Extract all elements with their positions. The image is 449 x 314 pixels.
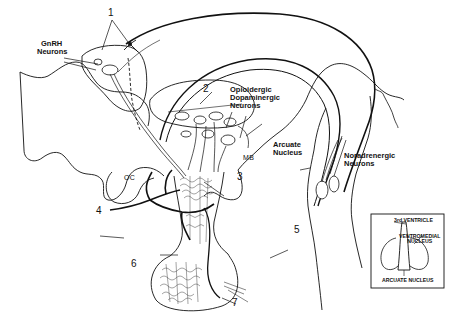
label-number-4: 4: [96, 206, 102, 217]
diagram-canvas: 1 GnRH Neurons 2 Opioidergic Dopaminergi…: [0, 0, 449, 314]
label-arcuate-nucleus: Arcuate Nucleus: [273, 141, 302, 157]
brainstem-left-edge: [307, 108, 326, 310]
brain-lower-contour: [20, 72, 164, 200]
label-gnrh-neurons: GnRH Neurons: [37, 40, 67, 56]
label-number-3: 3: [237, 172, 243, 183]
label-number-2: 2: [203, 84, 209, 95]
inset-label-arcuate-nucleus: ARCUATE NUCLEUS: [382, 278, 434, 283]
pituitary-capillary-network: [160, 262, 202, 304]
label-opioidergic-dopaminergic-neurons: Opioidergic Dopaminergic Neurons: [230, 86, 280, 110]
label-number-5: 5: [294, 225, 300, 236]
label-number-7: 7: [232, 298, 238, 309]
gnrh-line-2: Neurons: [37, 48, 67, 56]
noradrenergic-line-2: Neurons: [344, 160, 395, 168]
label-oc: OC: [124, 174, 135, 181]
label-number-6: 6: [131, 259, 137, 270]
portal-capillary-plexus: [180, 176, 214, 244]
gnrh-region-outline: [82, 45, 147, 111]
portal-vessel-7: [204, 208, 220, 298]
pituitary-stalk-right: [214, 172, 228, 254]
label-noradrenergic-neurons: Noradrenergic Neurons: [344, 152, 395, 168]
pituitary-stalk-left: [170, 176, 182, 256]
inset-label-ventromedial-nucleus: VENTROMEDIAL NUCLEUS: [399, 234, 441, 245]
cerebellar-squiggle: [374, 88, 398, 128]
inset-label-3rd-ventricle: 3rd VENTRICLE: [394, 218, 433, 223]
gnrh-neuron-1: [102, 65, 118, 75]
gnrh-neuron-2: [94, 59, 102, 65]
arcuate-line-2: Nucleus: [273, 149, 302, 157]
label-mb: MB: [243, 154, 254, 161]
label-number-1: 1: [108, 8, 114, 19]
ventromedial-line-2: NUCLEUS: [399, 239, 441, 244]
gnrh-axon-bundle: [110, 74, 184, 178]
opioid-line-3: Neurons: [230, 102, 280, 110]
opioid-neuron-cluster: [175, 112, 236, 145]
